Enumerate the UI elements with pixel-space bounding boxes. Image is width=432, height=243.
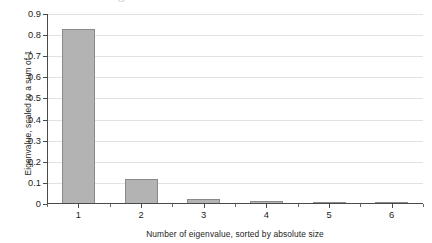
y-tick-mark (43, 77, 47, 78)
x-tick-label: 4 (264, 210, 269, 220)
x-tick-label: 6 (389, 210, 394, 220)
y-tick-label: 0.6 (28, 72, 41, 82)
x-tick-major (204, 204, 205, 208)
x-tick-minor (423, 204, 424, 207)
cropped-caption-artifact: g (0, 0, 432, 9)
gridline (47, 120, 423, 121)
gridline (47, 183, 423, 184)
y-tick-label: 0.9 (28, 9, 41, 19)
x-tick-minor (110, 204, 111, 207)
x-tick-major (266, 204, 267, 208)
y-tick-mark (43, 183, 47, 184)
x-tick-label: 3 (201, 210, 206, 220)
ghost-descender-glyph: g (118, 0, 125, 3)
x-tick-major (141, 204, 142, 208)
gridline (47, 162, 423, 163)
bar (62, 29, 95, 204)
y-tick-label: 0.4 (28, 115, 41, 125)
y-tick-label: 0.3 (28, 136, 41, 146)
y-tick-mark (43, 98, 47, 99)
y-tick-mark (43, 141, 47, 142)
bar (125, 179, 158, 204)
y-tick-mark (43, 162, 47, 163)
gridline (47, 77, 423, 78)
y-tick-label: 0.5 (28, 93, 41, 103)
y-tick-label: 0.2 (28, 157, 41, 167)
x-tick-label: 2 (138, 210, 143, 220)
x-tick-major (392, 204, 393, 208)
gridline (47, 35, 423, 36)
x-tick-major (78, 204, 79, 208)
y-axis-title: Eigenvalue, scaled to a sum of 1 (23, 23, 33, 203)
x-tick-label: 1 (76, 210, 81, 220)
x-tick-label: 5 (326, 210, 331, 220)
y-axis-line (47, 14, 48, 204)
x-tick-minor (235, 204, 236, 207)
x-tick-minor (360, 204, 361, 207)
x-tick-minor (172, 204, 173, 207)
plot-area: 00.10.20.30.40.50.60.70.80.9 123456 (47, 14, 423, 204)
gridline (47, 14, 423, 15)
x-tick-minor (47, 204, 48, 207)
y-tick-label: 0 (36, 199, 41, 209)
y-tick-mark (43, 35, 47, 36)
chart-figure: g Eigenvalue, scaled to a sum of 1 Numbe… (0, 0, 432, 243)
y-tick-mark (43, 56, 47, 57)
x-tick-minor (298, 204, 299, 207)
gridline (47, 56, 423, 57)
gridline (47, 98, 423, 99)
x-axis-title: Number of eigenvalue, sorted by absolute… (47, 229, 423, 239)
y-tick-mark (43, 120, 47, 121)
y-tick-label: 0.8 (28, 30, 41, 40)
y-tick-mark (43, 14, 47, 15)
y-tick-label: 0.1 (28, 178, 41, 188)
y-tick-label: 0.7 (28, 51, 41, 61)
x-tick-major (329, 204, 330, 208)
gridline (47, 141, 423, 142)
